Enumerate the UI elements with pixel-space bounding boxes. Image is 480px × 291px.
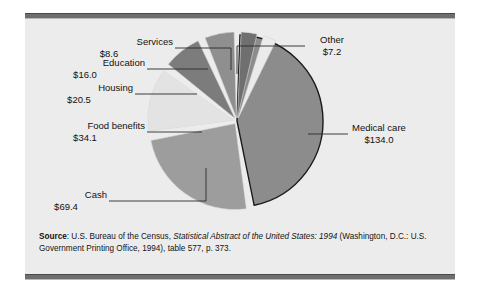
slice-label-housing: Housing $20.5	[25, 82, 133, 105]
slice-label-other: Other $7.2	[309, 34, 355, 57]
pie-chart-area: Services $8.6 Education $16.0 Housing $2…	[25, 18, 455, 223]
source-title: Statistical Abstract of the United State…	[173, 232, 337, 241]
source-part1: U.S. Bureau of the Census,	[69, 232, 173, 241]
bottom-rule	[25, 274, 455, 280]
source-note: Source: U.S. Bureau of the Census, Stati…	[39, 231, 443, 255]
slice-label-services: Services $8.6	[45, 36, 173, 59]
slice-label-education: Education $16.0	[25, 57, 145, 80]
source-label: Source	[39, 232, 67, 241]
chart-figure: Services $8.6 Education $16.0 Housing $2…	[25, 13, 455, 278]
slice-label-food-benefits: Food benefits $34.1	[25, 120, 145, 143]
slice-label-cash: Cash $69.4	[25, 189, 107, 212]
slice-label-medical-care: Medical care $134.0	[352, 122, 406, 145]
pie-slices	[148, 32, 323, 210]
pie-slice-cash[interactable]	[151, 124, 247, 210]
